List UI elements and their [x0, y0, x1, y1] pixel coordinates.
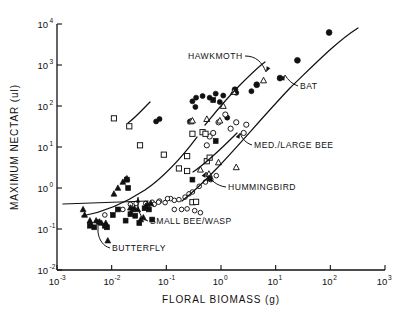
data-point-small-bee-wasp — [214, 173, 219, 178]
svg-text:10: 10 — [37, 183, 48, 194]
svg-text:1: 1 — [279, 274, 283, 281]
tick-label: 10-2 — [37, 263, 55, 276]
data-point-med-large-bee — [211, 130, 216, 135]
data-point-other-filled-square — [110, 213, 115, 218]
data-point-hummingbird — [176, 166, 181, 171]
data-point-hummingbird — [111, 116, 116, 121]
leader-line-bat — [285, 75, 298, 86]
data-point-small-bee-wasp — [192, 208, 197, 213]
series-label-small-bee-wasp: SMALL BEE/WASP — [150, 216, 232, 226]
svg-text:10: 10 — [37, 142, 48, 153]
svg-text:3: 3 — [50, 58, 54, 65]
data-point-med-large-bee — [234, 120, 239, 125]
data-point-bat — [254, 82, 260, 88]
svg-text:2: 2 — [50, 99, 54, 106]
data-point-med-large-bee — [204, 143, 209, 148]
tick-label: 10-3 — [49, 274, 66, 287]
data-point-hummingbird — [185, 153, 190, 158]
data-point-small-bee-wasp — [172, 207, 177, 212]
data-point-butterfly — [105, 238, 111, 243]
data-point-med-large-bee — [228, 126, 233, 131]
svg-text:10: 10 — [37, 265, 48, 276]
data-point-hawkmoth — [200, 94, 205, 99]
data-point-hummingbird — [127, 124, 132, 129]
data-point-other-filled-square — [123, 218, 128, 223]
series-label-hawkmoth: HAWKMOTH — [188, 51, 243, 61]
data-point-other-open-triangle — [233, 164, 239, 170]
data-point-hawkmoth — [249, 89, 254, 94]
nectar-biomass-figure: 10-310-210-1100101102103 10-210-11001011… — [0, 0, 406, 318]
data-point-other-filled-square — [147, 207, 152, 212]
tick-label: 10-2 — [103, 274, 120, 287]
data-point-other-filled-square — [137, 221, 142, 226]
data-point-hawkmoth — [221, 93, 226, 98]
series-label-hummingbird: HUMMINGBIRD — [228, 182, 296, 192]
data-point-hummingbird — [137, 143, 142, 148]
data-point-med-large-bee — [223, 112, 228, 117]
scatter-plot-canvas: 10-310-210-1100101102103 10-210-11001011… — [0, 0, 406, 318]
data-point-other-filled-square — [105, 225, 110, 230]
data-point-other-filled-square — [125, 177, 130, 182]
data-point-hawkmoth — [217, 100, 222, 105]
svg-text:-1: -1 — [169, 274, 175, 281]
data-point-other-filled-square — [92, 225, 97, 230]
data-point-hawkmoth — [193, 104, 198, 109]
svg-text:10: 10 — [37, 60, 48, 71]
data-point-hummingbird — [161, 152, 166, 157]
leader-arrowhead — [202, 172, 206, 178]
tick-label: 103 — [377, 274, 392, 287]
data-point-other-filled-square — [190, 177, 195, 182]
data-point-butterfly — [115, 185, 121, 190]
tick-label: 101 — [267, 274, 282, 287]
data-point-med-large-bee — [241, 130, 246, 135]
data-point-other-filled-square — [126, 186, 131, 191]
series-annotations: HAWKMOTHBATMED./LARGE BEEHUMMINGBIRDSMAL… — [112, 51, 334, 253]
y-axis-ticks: 10-210-1100101102103104 — [37, 17, 62, 276]
svg-text:3: 3 — [388, 274, 392, 281]
data-point-butterfly — [80, 206, 86, 211]
data-point-hummingbird — [190, 131, 195, 136]
data-point-small-bee-wasp — [103, 213, 108, 218]
svg-text:-2: -2 — [50, 263, 56, 270]
tick-label: 103 — [37, 58, 53, 71]
series-label-med-large-bee: MED./LARGE BEE — [254, 140, 334, 150]
data-point-other-filled-square — [128, 212, 133, 217]
data-point-other-filled-square — [213, 139, 218, 144]
svg-text:10: 10 — [49, 276, 60, 287]
svg-text:10: 10 — [322, 276, 333, 287]
svg-text:10: 10 — [37, 19, 48, 30]
data-point-small-bee-wasp — [121, 207, 126, 212]
data-point-other-filled-square — [133, 213, 138, 218]
data-point-other-filled-square — [115, 207, 120, 212]
svg-text:2: 2 — [333, 274, 337, 281]
trend-curve-small-bee-wasp — [82, 137, 197, 216]
series-label-butterfly: BUTTERFLY — [112, 243, 166, 253]
svg-text:-2: -2 — [115, 274, 121, 281]
trend-curve-hummingbird — [128, 102, 150, 123]
svg-text:10: 10 — [213, 276, 224, 287]
svg-text:0: 0 — [50, 181, 54, 188]
tick-label: 104 — [37, 17, 53, 30]
data-point-small-bee-wasp — [165, 196, 170, 201]
data-point-bat — [295, 57, 301, 63]
y-axis-title: MAXIMUM NECTAR (ul) — [9, 84, 20, 210]
svg-text:10: 10 — [158, 276, 169, 287]
data-point-med-large-bee — [244, 122, 249, 127]
data-point-hummingbird — [185, 168, 190, 173]
svg-text:10: 10 — [377, 276, 388, 287]
svg-text:10: 10 — [103, 276, 114, 287]
data-markers — [80, 30, 332, 243]
data-point-small-bee-wasp — [172, 198, 177, 203]
data-point-small-bee-wasp — [179, 207, 184, 212]
tick-label: 10-1 — [37, 222, 55, 235]
svg-text:-3: -3 — [60, 274, 66, 281]
svg-text:4: 4 — [50, 17, 54, 24]
tick-label: 100 — [213, 274, 228, 287]
data-point-hawkmoth — [194, 95, 199, 100]
data-point-butterfly — [111, 191, 117, 196]
svg-text:10: 10 — [37, 101, 48, 112]
tick-label: 100 — [37, 181, 53, 194]
data-point-hawkmoth — [157, 117, 162, 122]
leader-arrowhead — [136, 197, 140, 202]
svg-text:10: 10 — [37, 224, 48, 235]
